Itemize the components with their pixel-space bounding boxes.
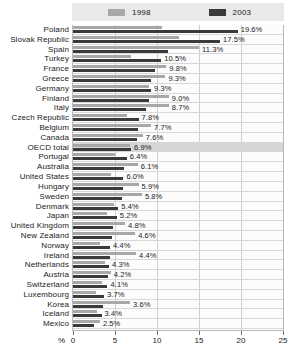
bar-value-label: 9.3% <box>168 74 186 84</box>
bar-1998 <box>73 281 102 284</box>
bar-2003 <box>73 148 131 151</box>
bar-1998 <box>73 320 100 323</box>
bar-2003 <box>73 89 151 92</box>
legend-swatch-2003 <box>209 9 226 16</box>
bar-1998 <box>73 183 139 186</box>
axis-tick <box>283 331 284 335</box>
bar-row: 6.9% <box>73 143 283 153</box>
bar-value-label: 19.6% <box>241 25 263 35</box>
category-label: Sweden <box>39 192 69 202</box>
category-label: France <box>44 64 70 74</box>
bar-2003 <box>73 40 220 43</box>
bar-2003 <box>73 138 137 141</box>
category-label: United Kingdom <box>11 221 69 231</box>
category-label: Spain <box>48 45 69 55</box>
bar-value-label: 9.3% <box>154 84 172 94</box>
bar-2003 <box>73 177 123 180</box>
legend-label-2003: 2003 <box>233 8 252 17</box>
axis-tick-label: 25 <box>279 336 288 345</box>
category-label: Austria <box>43 270 69 280</box>
category-label: Italy <box>54 103 69 113</box>
bar-1998 <box>73 85 149 88</box>
category-label: Czech Republic <box>12 113 69 123</box>
bar-value-label: 4.6% <box>138 231 156 241</box>
category-label: Switzerland <box>27 280 69 290</box>
bar-1998 <box>73 232 135 235</box>
bar-1998 <box>73 310 97 313</box>
bar-1998 <box>73 75 165 78</box>
bar-2003 <box>73 128 138 131</box>
bar-2003 <box>73 246 110 249</box>
bar-value-label: 5.9% <box>142 182 160 192</box>
bar-row: 6.4% <box>73 152 283 162</box>
bar-row: 7.7% <box>73 123 283 133</box>
bar-row: 5.9% <box>73 182 283 192</box>
bar-1998 <box>73 104 169 107</box>
bar-row: 7.6% <box>73 133 283 143</box>
bar-1998 <box>73 55 131 58</box>
bar-1998 <box>73 212 107 215</box>
category-label: Ireland <box>44 251 69 261</box>
category-label: Norway <box>41 241 69 251</box>
bar-2003 <box>73 314 102 317</box>
category-label: Hungary <box>38 182 69 192</box>
bar-row: 6.1% <box>73 162 283 172</box>
bar-1998 <box>73 301 130 304</box>
category-label: Turkey <box>44 54 69 64</box>
category-label: Belgium <box>39 123 69 133</box>
bar-value-label: 7.7% <box>154 123 172 133</box>
bar-value-label: 4.2% <box>114 270 132 280</box>
bar-1998 <box>73 222 125 225</box>
bar-2003 <box>73 236 112 239</box>
bar-1998 <box>73 261 105 264</box>
bar-2003 <box>73 69 155 72</box>
bar-value-label: 4.4% <box>113 241 131 251</box>
bar-1998 <box>73 271 111 274</box>
category-label: Finland <box>42 94 69 104</box>
bar-row: 3.4% <box>73 309 283 319</box>
bar-2003 <box>73 275 108 278</box>
category-label: Iceland <box>43 309 70 319</box>
axis-tick <box>115 331 116 335</box>
bar-value-label: 6.9% <box>134 143 152 153</box>
category-label: Slovak Republic <box>10 35 69 45</box>
bar-2003 <box>73 99 149 102</box>
bar-2003 <box>73 50 168 53</box>
category-label: Canada <box>40 133 69 143</box>
bar-1998 <box>73 36 179 39</box>
category-label: Denmark <box>36 202 69 212</box>
axis-tick-label: 20 <box>237 336 246 345</box>
plot-area: 19.6%17.5%11.3%10.5%9.8%9.3%9.3%9.0%8.7%… <box>72 25 284 331</box>
bar-value-label: 11.3% <box>202 45 223 55</box>
bar-1998 <box>73 114 127 117</box>
bar-1998 <box>73 144 130 147</box>
bar-value-label: 9.8% <box>169 64 187 74</box>
bar-row: 4.3% <box>73 260 283 270</box>
bar-value-label: 10.5% <box>164 54 186 64</box>
category-label: Greece <box>42 74 69 84</box>
axis-tick <box>73 331 74 335</box>
bar-value-label: 4.3% <box>112 260 130 270</box>
bar-2003 <box>73 226 113 229</box>
category-label: Netherlands <box>25 260 69 270</box>
bar-value-label: 17.5% <box>223 35 245 45</box>
legend-label-1998: 1998 <box>132 8 151 17</box>
bar-1998 <box>73 134 143 137</box>
bar-2003 <box>73 108 146 111</box>
bar-2003 <box>73 157 127 160</box>
bar-row: 3.7% <box>73 290 283 300</box>
bar-row: 3.6% <box>73 300 283 310</box>
category-label: Korea <box>47 300 69 310</box>
bar-row: 9.8% <box>73 64 283 74</box>
bar-1998 <box>73 291 96 294</box>
bar-value-label: 7.8% <box>142 113 160 123</box>
bar-row: 4.4% <box>73 251 283 261</box>
bar-row: 4.8% <box>73 221 283 231</box>
axis-tick-label: 15 <box>195 336 204 345</box>
gridline <box>283 25 284 330</box>
category-label: United States <box>20 172 69 182</box>
bar-2003 <box>73 265 109 268</box>
category-label: Japan <box>47 211 69 221</box>
bar-value-label: 5.4% <box>121 202 139 212</box>
bar-2003 <box>73 256 110 259</box>
